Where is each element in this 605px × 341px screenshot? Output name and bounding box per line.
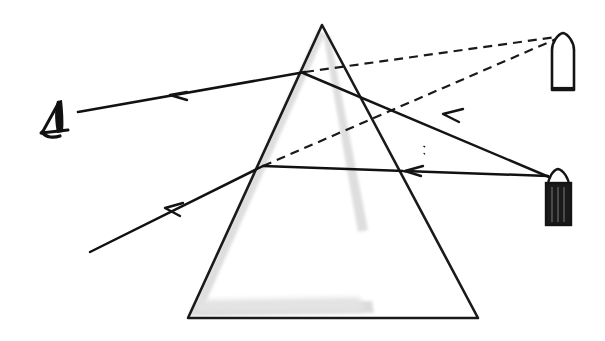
figure-background bbox=[0, 0, 605, 341]
candle-light-top-body bbox=[552, 33, 574, 90]
candle-light-top bbox=[551, 33, 575, 90]
candle-dark-bottom bbox=[546, 169, 571, 225]
ray-diagram-figure: Optical ray diagram: refraction of two l… bbox=[0, 0, 605, 341]
prism-ray-diagram-canvas bbox=[0, 0, 605, 341]
